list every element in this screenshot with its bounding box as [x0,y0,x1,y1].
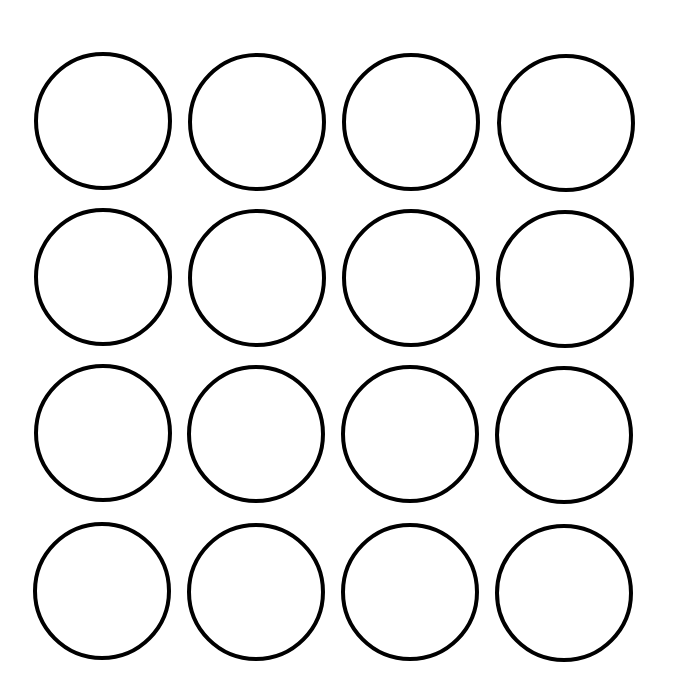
background [0,0,674,698]
circle-grid-diagram [0,0,674,698]
